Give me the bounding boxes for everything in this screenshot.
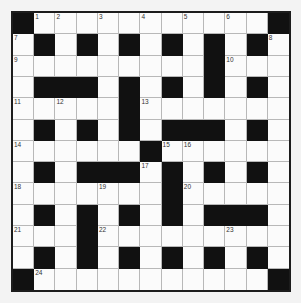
answer-cell[interactable] (268, 205, 289, 226)
answer-cell[interactable] (77, 56, 98, 77)
answer-cell[interactable]: 12 (55, 98, 76, 119)
answer-cell[interactable] (98, 247, 119, 268)
answer-cell[interactable]: 17 (140, 162, 161, 183)
answer-cell[interactable] (268, 141, 289, 162)
answer-cell[interactable] (183, 247, 204, 268)
answer-cell[interactable] (225, 34, 246, 55)
answer-cell[interactable] (140, 183, 161, 204)
answer-cell[interactable] (140, 226, 161, 247)
answer-cell[interactable]: 22 (98, 226, 119, 247)
answer-cell[interactable]: 24 (34, 269, 55, 290)
answer-cell[interactable] (55, 226, 76, 247)
answer-cell[interactable] (183, 162, 204, 183)
answer-cell[interactable] (34, 141, 55, 162)
answer-cell[interactable] (204, 269, 225, 290)
answer-cell[interactable] (204, 141, 225, 162)
answer-cell[interactable] (268, 56, 289, 77)
answer-cell[interactable] (55, 141, 76, 162)
answer-cell[interactable] (162, 56, 183, 77)
answer-cell[interactable] (13, 120, 34, 141)
answer-cell[interactable] (247, 141, 268, 162)
answer-cell[interactable] (13, 247, 34, 268)
answer-cell[interactable] (247, 269, 268, 290)
answer-cell[interactable] (55, 34, 76, 55)
answer-cell[interactable] (119, 13, 140, 34)
answer-cell[interactable] (268, 120, 289, 141)
answer-cell[interactable] (140, 269, 161, 290)
answer-cell[interactable] (162, 13, 183, 34)
answer-cell[interactable] (140, 247, 161, 268)
answer-cell[interactable] (119, 141, 140, 162)
answer-cell[interactable]: 1 (34, 13, 55, 34)
answer-cell[interactable] (77, 98, 98, 119)
answer-cell[interactable] (268, 77, 289, 98)
answer-cell[interactable] (183, 269, 204, 290)
answer-cell[interactable]: 7 (13, 34, 34, 55)
answer-cell[interactable] (225, 77, 246, 98)
answer-cell[interactable] (140, 120, 161, 141)
answer-cell[interactable]: 18 (13, 183, 34, 204)
answer-cell[interactable] (77, 183, 98, 204)
answer-cell[interactable]: 15 (162, 141, 183, 162)
answer-cell[interactable] (119, 226, 140, 247)
answer-cell[interactable] (98, 120, 119, 141)
answer-cell[interactable]: 4 (140, 13, 161, 34)
answer-cell[interactable] (98, 34, 119, 55)
answer-cell[interactable] (55, 205, 76, 226)
answer-cell[interactable] (55, 183, 76, 204)
answer-cell[interactable]: 9 (13, 56, 34, 77)
answer-cell[interactable] (34, 183, 55, 204)
answer-cell[interactable]: 16 (183, 141, 204, 162)
answer-cell[interactable] (13, 162, 34, 183)
answer-cell[interactable] (55, 56, 76, 77)
answer-cell[interactable] (34, 56, 55, 77)
answer-cell[interactable] (225, 269, 246, 290)
answer-cell[interactable]: 20 (183, 183, 204, 204)
answer-cell[interactable] (119, 56, 140, 77)
answer-cell[interactable]: 13 (140, 98, 161, 119)
answer-cell[interactable] (140, 77, 161, 98)
answer-cell[interactable] (140, 56, 161, 77)
answer-cell[interactable]: 21 (13, 226, 34, 247)
answer-cell[interactable]: 14 (13, 141, 34, 162)
answer-cell[interactable] (204, 13, 225, 34)
answer-cell[interactable] (119, 183, 140, 204)
answer-cell[interactable] (77, 141, 98, 162)
answer-cell[interactable] (55, 162, 76, 183)
answer-cell[interactable]: 3 (98, 13, 119, 34)
answer-cell[interactable] (13, 77, 34, 98)
answer-cell[interactable] (225, 141, 246, 162)
answer-cell[interactable] (55, 120, 76, 141)
answer-cell[interactable] (204, 98, 225, 119)
answer-cell[interactable] (204, 183, 225, 204)
answer-cell[interactable] (13, 205, 34, 226)
answer-cell[interactable] (140, 34, 161, 55)
answer-cell[interactable] (140, 205, 161, 226)
answer-cell[interactable] (247, 13, 268, 34)
answer-cell[interactable] (268, 162, 289, 183)
answer-cell[interactable]: 2 (55, 13, 76, 34)
answer-cell[interactable] (34, 98, 55, 119)
answer-cell[interactable] (183, 77, 204, 98)
answer-cell[interactable] (268, 183, 289, 204)
answer-cell[interactable] (98, 205, 119, 226)
answer-cell[interactable]: 6 (225, 13, 246, 34)
answer-cell[interactable]: 11 (13, 98, 34, 119)
answer-cell[interactable] (247, 226, 268, 247)
answer-cell[interactable] (183, 34, 204, 55)
answer-cell[interactable] (225, 247, 246, 268)
answer-cell[interactable] (183, 56, 204, 77)
answer-cell[interactable] (98, 77, 119, 98)
answer-cell[interactable] (225, 98, 246, 119)
answer-cell[interactable] (247, 98, 268, 119)
answer-cell[interactable] (268, 226, 289, 247)
answer-cell[interactable] (225, 162, 246, 183)
answer-cell[interactable] (77, 13, 98, 34)
answer-cell[interactable] (55, 247, 76, 268)
answer-cell[interactable]: 8 (268, 34, 289, 55)
answer-cell[interactable] (247, 183, 268, 204)
answer-cell[interactable] (77, 269, 98, 290)
answer-cell[interactable]: 5 (183, 13, 204, 34)
answer-cell[interactable] (98, 269, 119, 290)
answer-cell[interactable]: 23 (225, 226, 246, 247)
